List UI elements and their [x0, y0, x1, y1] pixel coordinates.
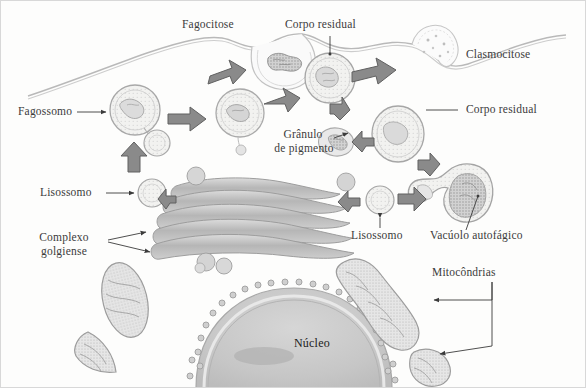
mitochondrion-lower-left [75, 332, 116, 372]
residual-body-top [305, 53, 355, 103]
arrow-residual-body-to-clasmocytosis [352, 58, 396, 84]
label-nucleo: Núcleo [294, 337, 330, 350]
autophagic-vacuole [408, 164, 492, 222]
leader-golgi-b [108, 242, 150, 252]
leader-mito-a [434, 282, 492, 300]
mitochondrion-upper-left [94, 258, 155, 342]
label-complexo-line1: Complexo [20, 231, 108, 244]
arrow-phagolysosome-to-residual-body [264, 88, 300, 112]
lysosome-center [366, 186, 394, 214]
phagolysosome [216, 89, 264, 155]
label-lisossomo-center: Lisossomo [351, 229, 403, 242]
label-fagocitose: Fagocitose [182, 18, 234, 31]
cell-diagram-figure: Fagocitose Corpo residual Clasmocitose F… [0, 0, 586, 388]
label-mitocondrias: Mitocôndrias [432, 266, 496, 279]
label-granulo-line1: Grânulo [272, 128, 334, 141]
label-corpo-residual-right: Corpo residual [466, 103, 537, 116]
residual-body-right [372, 106, 424, 162]
leader-golgi-a [108, 232, 146, 240]
label-vacuolo-autofagico: Vacúolo autofágico [430, 229, 523, 242]
label-clasmocitose: Clasmocitose [466, 48, 530, 61]
phagosome [110, 85, 170, 156]
arrow-phagosome-to-phagolysosome [168, 107, 206, 131]
arrow-phagocytosis-to-phagosome [208, 60, 246, 84]
label-corpo-residual-top: Corpo residual [285, 18, 356, 31]
label-complexo-line2: golgiense [20, 245, 108, 258]
arrow-lysosome-to-phagosome [121, 142, 147, 172]
leader-mito-b [440, 282, 492, 354]
label-lisossomo-left: Lisossomo [40, 186, 92, 199]
mitochondrion-right-small [410, 349, 451, 386]
arrow-residual-down [418, 153, 440, 176]
arrow-pigment-granule-return [352, 131, 374, 152]
golgi-complex [151, 167, 355, 274]
label-granulo-line2: de pigmento [262, 142, 346, 155]
label-fagossomo: Fagossomo [18, 105, 72, 118]
